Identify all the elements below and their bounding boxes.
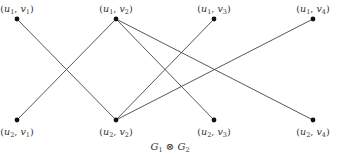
vertex-u1v4	[311, 17, 316, 22]
vertex-label-u1v4: (u1, v4)	[296, 4, 329, 16]
caption-left-graph: G	[150, 141, 158, 152]
vertex-label-u2v3: (u2, v3)	[197, 127, 230, 139]
caption-right-subscript: 2	[185, 146, 189, 154]
vertex-u1v2	[114, 17, 119, 22]
tensor-product-operator: ⊗	[166, 141, 174, 152]
graph-caption: G1 ⊗ G2	[150, 142, 189, 154]
caption-left-subscript: 1	[158, 146, 162, 154]
vertex-label-u2v1: (u2, v1)	[0, 127, 33, 139]
caption-right-graph: G	[177, 141, 185, 152]
vertex-label-u1v1: (u1, v1)	[0, 4, 33, 16]
vertex-label-u2v2: (u2, v2)	[99, 127, 132, 139]
edge-layer	[17, 19, 313, 120]
vertex-u2v3	[212, 118, 217, 123]
vertex-label-u2v4: (u2, v4)	[296, 127, 329, 139]
vertex-u1v3	[212, 17, 217, 22]
vertex-label-u1v3: (u1, v3)	[197, 4, 230, 16]
vertex-label-u1v2: (u1, v2)	[99, 4, 132, 16]
vertex-u1v1	[15, 17, 20, 22]
vertex-u2v2	[114, 118, 119, 123]
vertex-u2v1	[15, 118, 20, 123]
vertex-u2v4	[311, 118, 316, 123]
graph-canvas	[0, 0, 339, 156]
